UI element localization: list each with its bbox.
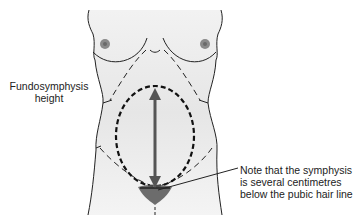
symphysis-note: Note that the symphysis is several centi… [240, 164, 357, 200]
label-line: Fundosymphysis [8, 80, 90, 92]
label-line: height [8, 92, 90, 104]
fundosymphysis-label: Fundosymphysis height [8, 80, 90, 104]
note-line: below the pubic hair line [240, 188, 357, 200]
note-line: is several centimetres [240, 176, 357, 188]
note-line: Note that the symphysis [240, 164, 357, 176]
